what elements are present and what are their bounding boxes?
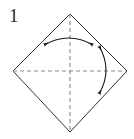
- horizontal-fold-arrow: [44, 38, 93, 45]
- diagram-canvas: [0, 0, 134, 139]
- vertical-fold-arrow: [99, 46, 106, 94]
- origami-step-diagram: 1: [0, 0, 134, 139]
